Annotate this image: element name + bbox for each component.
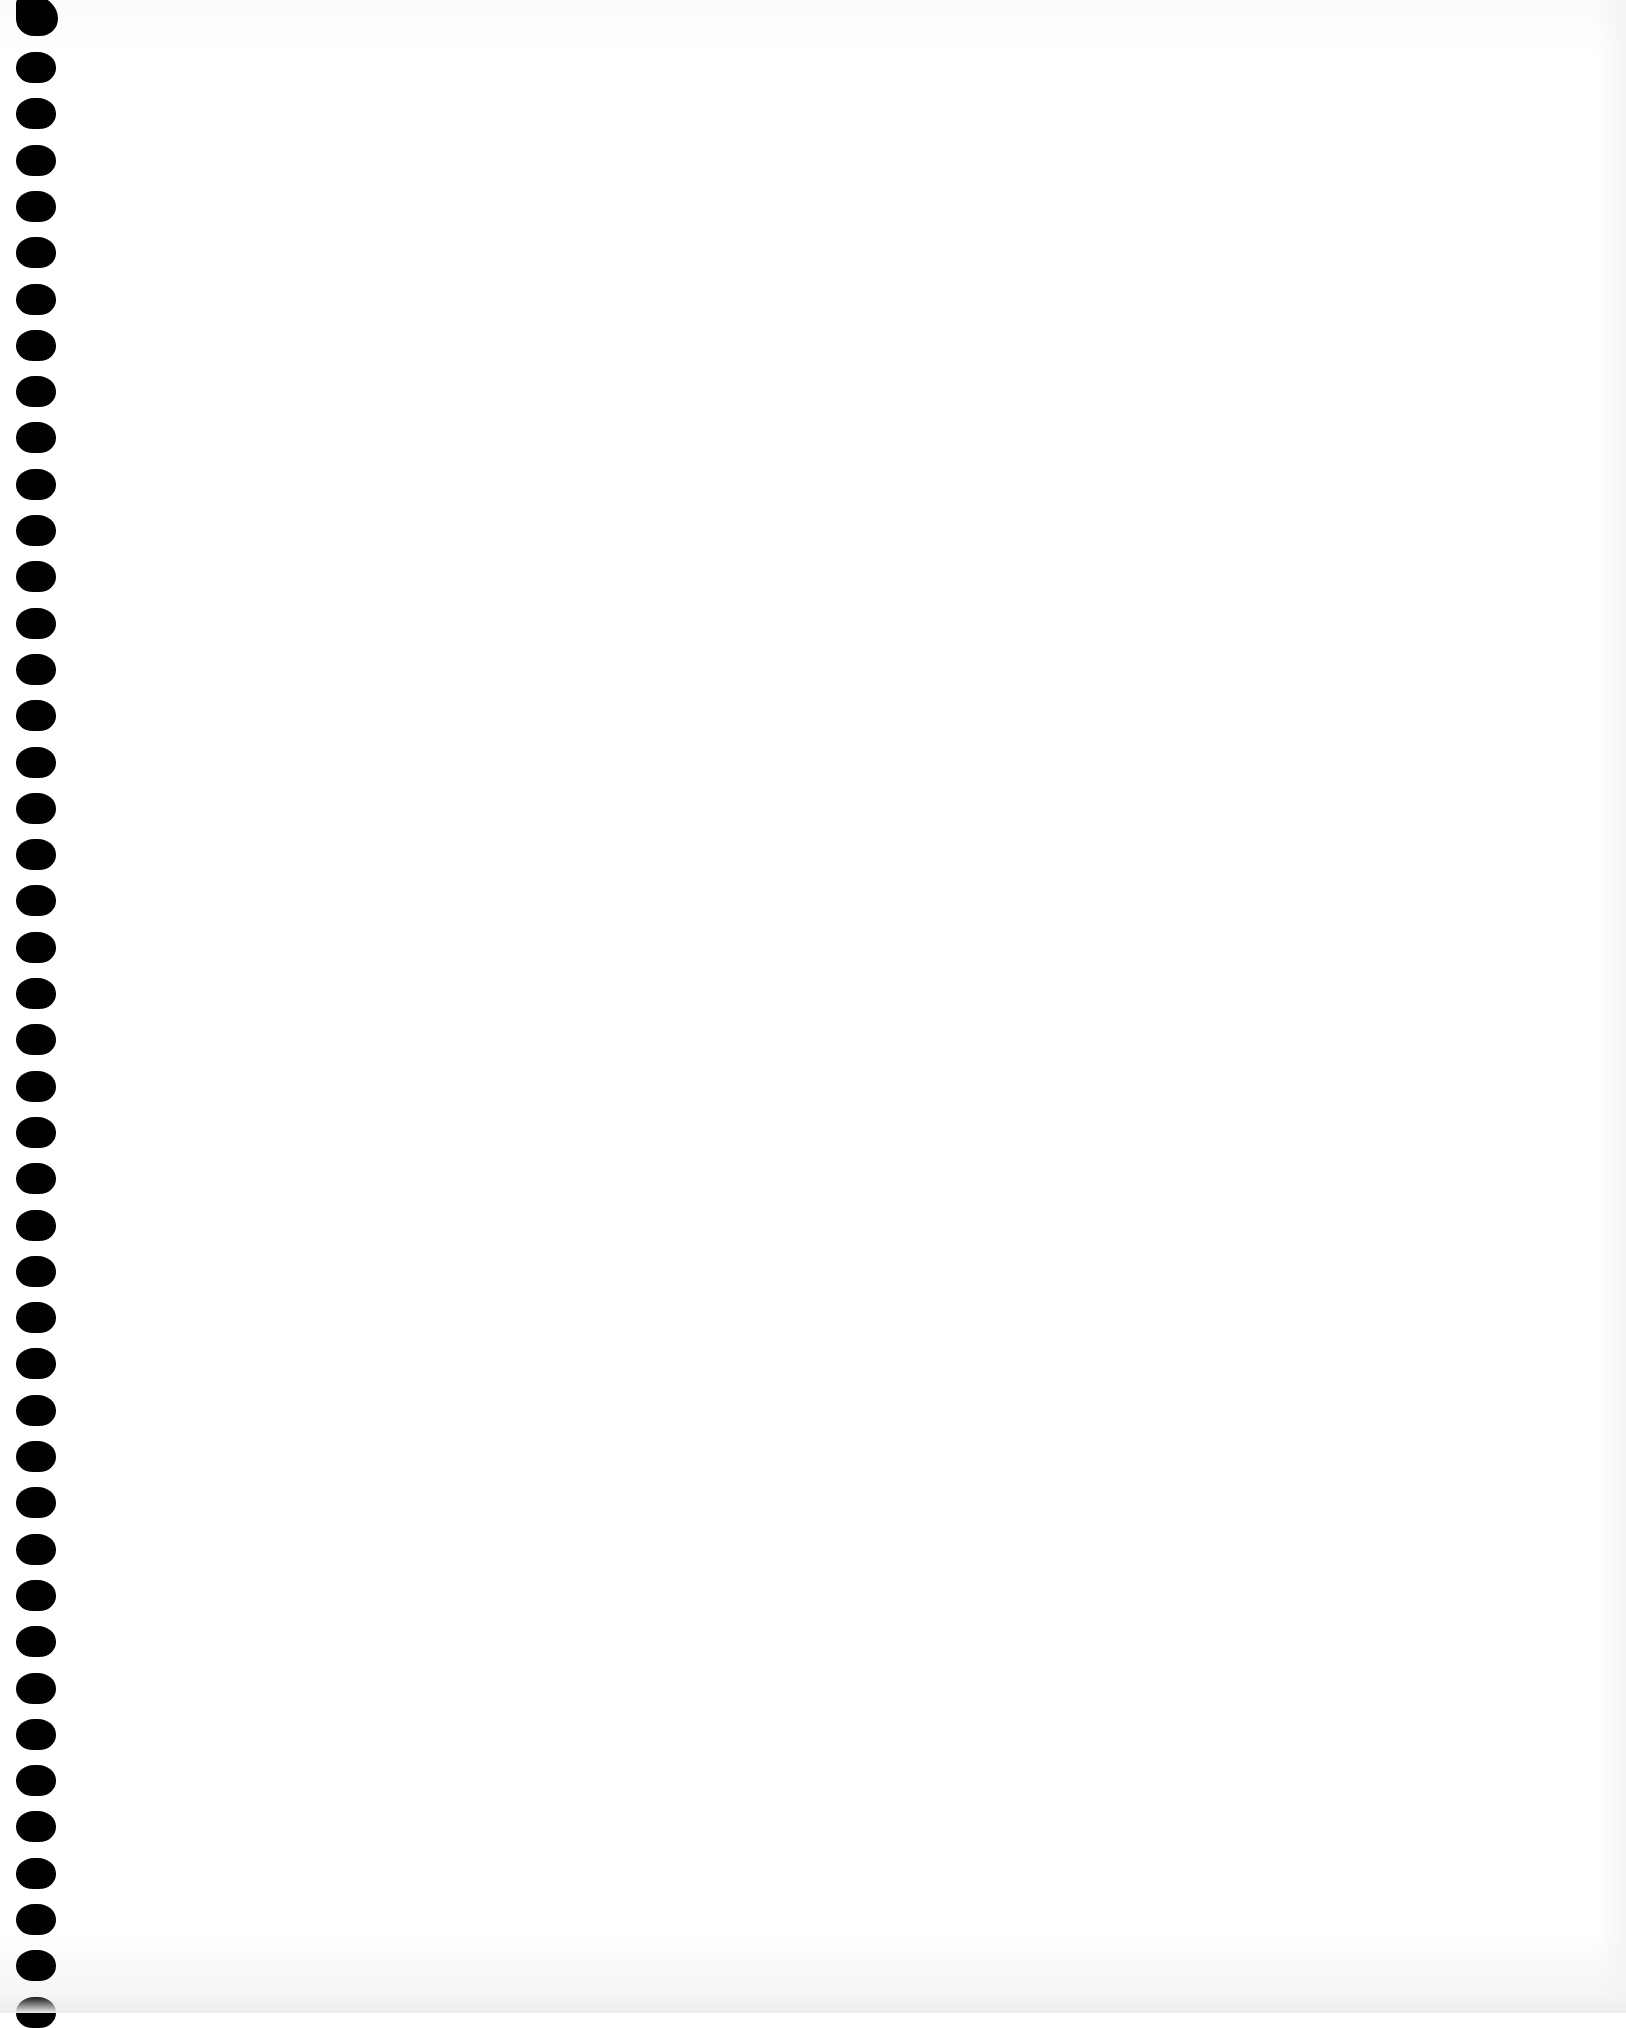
binding-hole [16, 1024, 56, 1055]
binding-hole [16, 0, 58, 36]
binding-hole [16, 1626, 56, 1657]
binding-hole [16, 1302, 56, 1333]
binding-hole [16, 1950, 56, 1981]
binding-hole [16, 469, 56, 500]
binding-hole [16, 839, 56, 870]
binding-hole [16, 515, 56, 546]
binding-hole [16, 330, 56, 361]
spiral-binding-holes [16, 0, 58, 2013]
binding-hole [16, 1348, 56, 1379]
binding-hole [16, 1071, 56, 1102]
binding-hole [16, 1441, 56, 1472]
binding-hole [16, 1210, 56, 1241]
binding-hole [16, 98, 56, 129]
binding-hole [16, 1904, 56, 1935]
binding-hole [16, 1163, 56, 1194]
binding-hole [16, 237, 56, 268]
binding-hole [16, 1811, 56, 1842]
binding-hole [16, 1858, 56, 1889]
binding-hole [16, 1256, 56, 1287]
binding-hole [16, 191, 56, 222]
page-edge-shadow-right [1596, 0, 1626, 2013]
binding-hole [16, 376, 56, 407]
binding-hole [16, 284, 56, 315]
binding-hole [16, 1719, 56, 1750]
binding-hole [16, 978, 56, 1009]
binding-hole [16, 747, 56, 778]
binding-hole [16, 885, 56, 916]
page-edge-shadow-bottom [0, 1995, 1626, 2013]
binding-hole [16, 1487, 56, 1518]
binding-hole [16, 422, 56, 453]
binding-hole [16, 793, 56, 824]
binding-hole [16, 1673, 56, 1704]
binding-hole [16, 1580, 56, 1611]
binding-hole [16, 1117, 56, 1148]
binding-hole [16, 1534, 56, 1565]
binding-hole [16, 145, 56, 176]
binding-hole [16, 1395, 56, 1426]
binding-hole [16, 654, 56, 685]
binding-hole [16, 932, 56, 963]
binding-hole [16, 1765, 56, 1796]
binding-hole [16, 561, 56, 592]
binding-hole [16, 608, 56, 639]
binding-hole [16, 700, 56, 731]
binding-hole [16, 52, 56, 83]
